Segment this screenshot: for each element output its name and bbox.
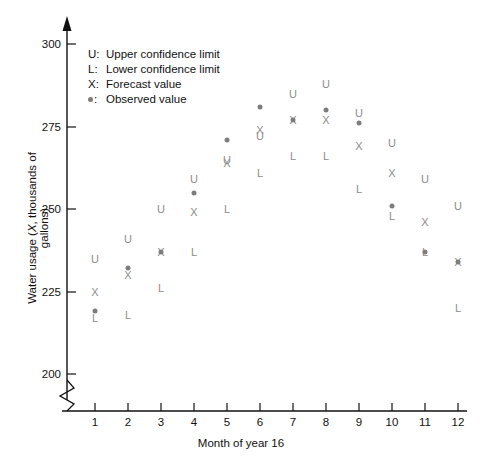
x-tick-label: 9 <box>356 416 362 428</box>
upper-limit-marker: U <box>289 88 297 99</box>
legend-label-observed: Observed value <box>106 93 220 108</box>
upper-limit-marker: U <box>421 174 429 185</box>
x-tick-label: 10 <box>386 416 399 428</box>
legend-key-u: U: <box>88 48 106 63</box>
forecast-marker: X <box>388 167 395 178</box>
legend-row-forecast: X: Forecast value <box>88 78 220 93</box>
legend-row-upper: U: Upper confidence limit <box>88 48 220 63</box>
x-tick-label: 7 <box>290 416 296 428</box>
x-axis-title: Month of year 16 <box>0 437 482 449</box>
lower-limit-marker: L <box>389 210 395 221</box>
observed-value-marker <box>192 190 197 195</box>
upper-limit-marker: U <box>91 253 99 264</box>
upper-limit-marker: U <box>190 174 198 185</box>
lower-limit-marker: L <box>158 283 164 294</box>
observed-value-marker <box>291 117 296 122</box>
upper-limit-marker: U <box>124 233 132 244</box>
lower-limit-marker: L <box>356 184 362 195</box>
lower-limit-marker: L <box>323 151 329 162</box>
upper-limit-marker: U <box>454 200 462 211</box>
legend-label-lower: Lower confidence limit <box>106 63 220 78</box>
observed-value-marker <box>93 309 98 314</box>
forecast-marker: X <box>124 270 131 281</box>
upper-limit-marker: U <box>322 78 330 89</box>
legend-key-dot: : <box>88 93 106 108</box>
y-tick-label: 300 <box>42 38 61 50</box>
observed-value-marker <box>159 249 164 254</box>
x-tick-label: 2 <box>125 416 131 428</box>
upper-limit-marker: U <box>388 138 396 149</box>
legend-label-forecast: Forecast value <box>106 78 220 93</box>
forecast-marker: X <box>421 217 428 228</box>
lower-limit-marker: L <box>125 309 131 320</box>
x-tick-label: 4 <box>191 416 197 428</box>
upper-limit-marker: U <box>157 204 165 215</box>
x-tick-label: 8 <box>323 416 329 428</box>
observed-value-marker <box>456 259 461 264</box>
chart-legend: U: Upper confidence limit L: Lower confi… <box>88 48 220 108</box>
lower-limit-marker: L <box>191 246 197 257</box>
lower-limit-marker: L <box>290 151 296 162</box>
legend-key-x: X: <box>88 78 106 93</box>
legend-key-l: L: <box>88 63 106 78</box>
observed-value-marker <box>357 121 362 126</box>
observed-value-marker <box>423 249 428 254</box>
chart-axes <box>0 0 482 467</box>
forecast-marker: X <box>223 157 230 168</box>
observed-value-marker <box>126 266 131 271</box>
lower-limit-marker: L <box>257 167 263 178</box>
y-tick-label: 200 <box>42 368 61 380</box>
legend-row-observed: : Observed value <box>88 93 220 108</box>
observed-value-marker <box>390 203 395 208</box>
lower-limit-marker: L <box>455 303 461 314</box>
x-tick-label: 5 <box>224 416 230 428</box>
observed-dot-icon <box>88 97 93 102</box>
y-axis-title: Water usage (X, thousands of gallons) <box>26 138 50 318</box>
y-tick-label: 275 <box>42 121 61 133</box>
observed-value-marker <box>324 108 329 113</box>
x-tick-label: 6 <box>257 416 263 428</box>
lower-limit-marker: L <box>224 204 230 215</box>
forecast-marker: X <box>355 141 362 152</box>
x-tick-label: 1 <box>92 416 98 428</box>
legend-row-lower: L: Lower confidence limit <box>88 63 220 78</box>
x-tick-label: 12 <box>452 416 465 428</box>
x-tick-label: 3 <box>158 416 164 428</box>
y-axis-title-variable: X <box>26 224 38 232</box>
y-axis-title-prefix: Water usage ( <box>26 232 38 304</box>
forecast-marker: X <box>256 124 263 135</box>
forecast-marker: X <box>91 286 98 297</box>
forecast-marker: X <box>190 207 197 218</box>
chart-canvas: 300 275 250 225 200 1 2 3 4 5 6 7 8 9 10… <box>0 0 482 467</box>
observed-value-marker <box>258 104 263 109</box>
observed-value-marker <box>225 137 230 142</box>
lower-limit-marker: L <box>92 312 98 323</box>
forecast-marker: X <box>322 114 329 125</box>
x-tick-label: 11 <box>419 416 431 428</box>
legend-label-upper: Upper confidence limit <box>106 48 220 63</box>
upper-limit-marker: U <box>355 108 363 119</box>
